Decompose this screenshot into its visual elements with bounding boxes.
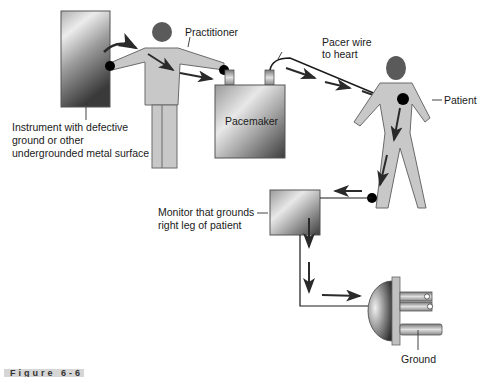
heart-contact [397,93,409,105]
plug-prong-ground [400,324,442,335]
leakage-current-diagram: Instrument with defective ground or othe… [0,0,483,377]
monitor-label-line2: right leg of patient [158,219,242,231]
pacer-wire-leader-line [278,52,282,59]
ground-label: Ground [401,353,436,365]
practitioner-head [152,22,172,42]
pacer-wire-label-line2: to heart [322,48,358,60]
pacer-wire-label-line1: Pacer wire [322,36,372,48]
patient-label: Patient [444,94,477,106]
practitioner-label: Practitioner [185,26,239,38]
current-arrow [286,68,315,78]
pacemaker-device [215,70,285,158]
instrument-label-line2: ground or other [12,134,84,146]
pacemaker-label: Pacemaker [225,115,279,127]
current-arrow [325,82,350,88]
contact-dot-instrument [105,61,115,71]
pacemaker-terminal-left [225,70,234,85]
ground-plug [368,277,442,345]
practitioner-leader-line [188,37,190,47]
figure-caption-bar: Figure 6-6 [4,369,84,377]
current-arrow [180,73,212,79]
patient-figure [354,56,430,208]
current-arrow [322,295,360,296]
monitor-device [270,190,320,235]
pacemaker-terminal-right [265,70,274,85]
instrument-label-line1: Instrument with defective [12,121,128,133]
monitor-label-line1: Monitor that grounds [158,206,254,218]
instrument-label-line3: undergrounded metal surface [12,147,149,159]
patient-head [386,56,406,80]
figure-caption: Figure 6-6 [4,369,84,377]
instrument-metal-surface [61,11,110,107]
